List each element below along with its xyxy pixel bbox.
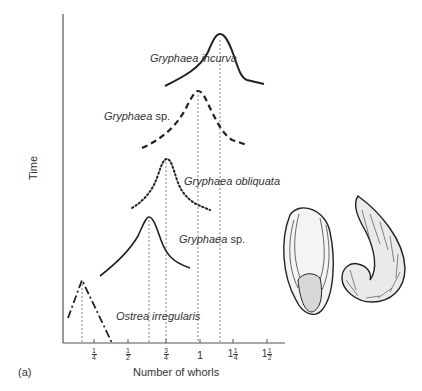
tick-label-one: 1 (190, 349, 210, 361)
shell-illustration-side (342, 196, 405, 302)
tick-label-quarter: 14 (84, 348, 104, 361)
tick-label-three-quarter: 34 (156, 348, 176, 361)
tick-label-half: 12 (118, 348, 138, 361)
label-gryphaea-sp-solid: Gryphaea sp. (179, 233, 245, 245)
x-axis-label: Number of whorls (133, 366, 219, 378)
y-axis-label: Time (27, 156, 39, 180)
label-gryphaea-incurva: Gryphaea incurva (150, 52, 237, 64)
curve-ostrea-irregularis (68, 280, 112, 343)
tick-label-one-half: 112 (257, 348, 277, 361)
shell-illustration-front (284, 208, 334, 314)
curve-gryphaea-sp-solid (100, 217, 190, 276)
label-gryphaea-obliquata: Gryphaea obliquata (184, 175, 280, 187)
label-ostrea-irregularis: Ostrea irregularis (116, 310, 200, 322)
panel-label: (a) (18, 366, 31, 378)
label-gryphaea-sp-dashed: Gryphaea sp. (104, 110, 170, 122)
tick-label-one-quarter: 114 (223, 348, 243, 361)
